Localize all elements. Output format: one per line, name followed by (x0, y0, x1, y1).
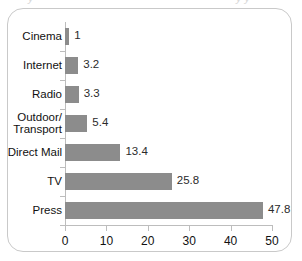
x-axis-tick (106, 226, 107, 231)
cut-off-text-right: y y (236, 0, 250, 4)
bar-value-label: 13.4 (125, 143, 147, 160)
category-label: TV (47, 175, 62, 188)
bar-row: 47.8 (65, 196, 272, 225)
bar (65, 57, 78, 74)
bar-row: 25.8 (65, 167, 272, 196)
x-axis-tick-label: 50 (265, 234, 278, 248)
category-label: Direct Mail (8, 146, 62, 159)
plot-area: 13.23.35.413.425.847.8 (65, 22, 272, 225)
x-axis-tick (65, 226, 66, 231)
bar-value-label: 5.4 (92, 114, 108, 131)
x-axis-tick-label: 30 (183, 234, 196, 248)
bar-value-label: 47.8 (268, 201, 290, 218)
bar (65, 173, 172, 190)
x-axis-tick (231, 226, 232, 231)
x-axis-tick (272, 226, 273, 231)
category-label: Cinema (22, 30, 62, 43)
x-axis-tick (148, 226, 149, 231)
category-label: Internet (23, 59, 62, 72)
bar (65, 144, 120, 161)
bar-value-label: 25.8 (177, 172, 199, 189)
bar-row: 13.4 (65, 138, 272, 167)
category-label: Outdoor/ Transport (13, 111, 62, 136)
bar-row: 1 (65, 22, 272, 51)
category-label: Radio (32, 88, 62, 101)
bar (65, 86, 79, 103)
cut-off-caption-sliver: y y y (0, 0, 302, 6)
x-axis-tick-label: 0 (62, 234, 69, 248)
x-axis-tick-label: 20 (141, 234, 154, 248)
cut-off-text-left: y (28, 0, 34, 4)
bar-row: 3.3 (65, 80, 272, 109)
bar (65, 28, 69, 45)
x-axis-tick (189, 226, 190, 231)
bar-row: 5.4 (65, 109, 272, 138)
bar-value-label: 3.3 (84, 85, 100, 102)
bar (65, 202, 263, 219)
bar-chart-figure: y y y CinemaInternetRadioOutdoor/ Transp… (0, 0, 302, 261)
bar-value-label: 3.2 (83, 56, 99, 73)
x-axis-tick-label: 40 (224, 234, 237, 248)
bar (65, 115, 87, 132)
x-axis-line (65, 225, 273, 226)
category-label: Press (33, 204, 62, 217)
bar-value-label: 1 (74, 27, 80, 44)
x-axis-tick-label: 10 (100, 234, 113, 248)
bar-row: 3.2 (65, 51, 272, 80)
